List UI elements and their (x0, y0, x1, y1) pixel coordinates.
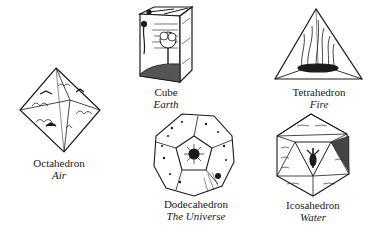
tetrahedron-label: Tetrahedron Fire (282, 86, 356, 110)
solid-name: Cube (136, 86, 196, 98)
dodecahedron-universe-icon (152, 112, 236, 198)
icosahedron-figure (275, 112, 351, 198)
solid-name: Octahedron (26, 157, 92, 169)
icosahedron-water-icon (275, 112, 351, 198)
octahedron-air-icon (18, 66, 102, 154)
cube-earth-icon (134, 4, 194, 84)
solid-name: Icosahedron (276, 199, 350, 211)
solid-name: Dodecahedron (156, 198, 236, 210)
octahedron-figure (18, 66, 102, 154)
cube-label: Cube Earth (136, 86, 196, 110)
octahedron-label: Octahedron Air (26, 157, 92, 181)
element-name: Air (26, 169, 92, 181)
element-name: Water (276, 211, 350, 223)
cube-figure (134, 4, 194, 84)
tetrahedron-figure (272, 6, 364, 82)
element-name: Fire (282, 98, 356, 110)
icosahedron-label: Icosahedron Water (276, 199, 350, 223)
dodecahedron-figure (152, 112, 236, 198)
tetrahedron-fire-icon (272, 6, 364, 82)
element-name: Earth (136, 98, 196, 110)
dodecahedron-label: Dodecahedron The Universe (156, 198, 236, 222)
element-name: The Universe (156, 210, 236, 222)
solid-name: Tetrahedron (282, 86, 356, 98)
